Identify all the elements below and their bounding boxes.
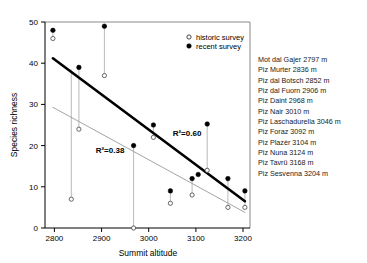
data-point-recent bbox=[226, 176, 231, 181]
figure-container: 50 40 30 20 10 0 2800 2900 3000 3100 320… bbox=[0, 0, 367, 263]
list-item: Piz Nuna 3124 m bbox=[258, 148, 366, 158]
legend-marker-recent-survey bbox=[187, 44, 192, 49]
data-point-historic bbox=[168, 201, 172, 205]
data-point-recent bbox=[205, 122, 210, 127]
data-point-recent bbox=[168, 189, 173, 194]
data-point-recent bbox=[190, 176, 195, 181]
y-ticklabel-40: 40 bbox=[29, 59, 38, 68]
legend: historic survey recent survey bbox=[187, 33, 244, 51]
data-point-recent bbox=[151, 123, 156, 128]
x-axis-ticklabels: 2800 2900 3000 3100 3200 bbox=[46, 234, 253, 243]
y-ticklabel-10: 10 bbox=[29, 183, 38, 192]
list-item: Piz Tavrü 3168 m bbox=[258, 158, 366, 168]
legend-marker-historic-survey bbox=[187, 35, 191, 39]
list-item: Piz Plazèr 3104 m bbox=[258, 138, 366, 148]
summit-peak-list: Mot dal Gajer 2797 m Piz Murter 2836 m P… bbox=[258, 55, 366, 179]
r2-label-historic: R²=0.38 bbox=[96, 146, 125, 155]
list-item: Piz Sesvenna 3204 m bbox=[258, 169, 366, 179]
x-axis-ticks bbox=[54, 228, 243, 232]
y-axis-ticks bbox=[41, 22, 45, 228]
r2-label-recent: R²=0.60 bbox=[173, 129, 202, 138]
y-ticklabel-20: 20 bbox=[29, 142, 38, 151]
plot-frame bbox=[45, 22, 250, 228]
x-ticklabel-2800: 2800 bbox=[46, 234, 64, 243]
y-ticklabel-30: 30 bbox=[29, 100, 38, 109]
data-point-recent bbox=[243, 189, 248, 194]
y-axis-title: Species richness bbox=[9, 93, 19, 157]
data-point-historic bbox=[205, 168, 209, 172]
legend-label-recent-survey: recent survey bbox=[196, 42, 241, 51]
list-item: Mot dal Gajer 2797 m bbox=[258, 55, 366, 65]
y-axis-ticklabels: 50 40 30 20 10 0 bbox=[29, 18, 38, 233]
list-item: Piz Daint 2968 m bbox=[258, 96, 366, 106]
data-point-historic bbox=[102, 74, 106, 78]
list-item: Piz dal Fuorn 2906 m bbox=[258, 86, 366, 96]
list-item: Piz Foraz 3092 m bbox=[258, 127, 366, 137]
data-point-historic bbox=[151, 135, 155, 139]
data-point-recent bbox=[102, 24, 107, 29]
data-point-historic bbox=[51, 36, 55, 40]
x-ticklabel-3200: 3200 bbox=[234, 234, 252, 243]
x-ticklabel-3000: 3000 bbox=[140, 234, 158, 243]
list-item: Piz Murter 2836 m bbox=[258, 65, 366, 75]
x-ticklabel-3100: 3100 bbox=[187, 234, 205, 243]
data-point-historic bbox=[226, 205, 230, 209]
trendline-historic bbox=[53, 107, 245, 212]
point-connectors bbox=[53, 26, 245, 228]
data-point-historic bbox=[132, 226, 136, 230]
y-ticklabel-0: 0 bbox=[34, 224, 39, 233]
list-item: Piz dal Botsch 2852 m bbox=[258, 76, 366, 86]
x-ticklabel-2900: 2900 bbox=[93, 234, 111, 243]
data-point-recent bbox=[196, 172, 201, 177]
trendline-recent bbox=[53, 58, 245, 201]
legend-label-historic-survey: historic survey bbox=[196, 33, 244, 42]
list-item: Piz Laschadurella 3046 m bbox=[258, 117, 366, 127]
data-point-historic bbox=[69, 197, 73, 201]
data-point-recent bbox=[51, 28, 56, 33]
list-item: Piz Nair 3010 m bbox=[258, 107, 366, 117]
data-point-historic bbox=[77, 127, 81, 131]
x-axis-title: Summit altitude bbox=[119, 248, 178, 258]
data-point-recent bbox=[77, 65, 82, 70]
y-ticklabel-50: 50 bbox=[29, 18, 38, 27]
data-point-historic bbox=[243, 205, 247, 209]
data-point-historic bbox=[190, 193, 194, 197]
data-point-recent bbox=[131, 143, 136, 148]
